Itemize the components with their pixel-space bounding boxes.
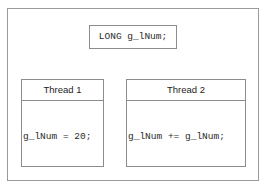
thread-race-condition-diagram: LONG g_lNum; Thread 1 g_lNum = 20; Threa…	[0, 0, 267, 190]
thread-2-header: Thread 2	[127, 80, 245, 101]
thread-2-box: Thread 2 g_lNum += g_lNum;	[126, 79, 246, 167]
thread-2-code-text: g_lNum += g_lNum;	[127, 132, 225, 142]
thread-2-header-label: Thread 2	[167, 85, 205, 95]
shared-variable-declaration-text: LONG g_lNum;	[99, 32, 167, 42]
thread-2-body: g_lNum += g_lNum;	[127, 101, 245, 166]
thread-1-header-label: Thread 1	[43, 85, 81, 95]
thread-1-box: Thread 1 g_lNum = 20;	[21, 79, 104, 167]
shared-variable-declaration-box: LONG g_lNum;	[89, 25, 177, 49]
thread-1-header: Thread 1	[22, 80, 103, 101]
thread-1-code-text: g_lNum = 20;	[22, 132, 91, 142]
thread-1-body: g_lNum = 20;	[22, 101, 103, 166]
